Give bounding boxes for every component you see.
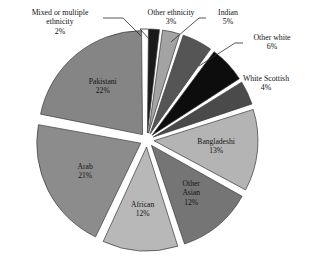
pie-label-other-asian: OtherAsian12% [182, 179, 200, 206]
callout-white-scottish-percent: 4% [228, 83, 304, 92]
callout-other-ethnicity: Other ethnicity 3% [133, 8, 209, 27]
callout-mixed-label-line2: ethnicity [46, 17, 73, 26]
callout-indian-label: Indian [218, 8, 238, 17]
callout-indian: Indian 5% [206, 8, 250, 27]
callout-other-ethnicity-label: Other ethnicity [148, 8, 195, 17]
callout-mixed-label-line1: Mixed or multiple [32, 8, 89, 17]
callout-other-white: Other white 6% [239, 33, 305, 52]
callout-other-white-label: Other white [253, 33, 290, 42]
callout-white-scottish-label: White Scottish [243, 74, 289, 83]
callout-other-ethnicity-percent: 3% [133, 17, 209, 26]
callout-mixed-percent: 2% [12, 27, 108, 36]
pie-chart-figure: Bangladeshi13%OtherAsian12%African12%Ara… [0, 0, 309, 259]
callout-other-white-percent: 6% [239, 42, 305, 51]
pie-label-arab: Arab21% [78, 162, 93, 180]
callout-indian-percent: 5% [206, 17, 250, 26]
callout-white-scottish: White Scottish 4% [228, 74, 304, 93]
callout-mixed-or-multiple-ethnicity: Mixed or multiple ethnicity 2% [12, 8, 108, 36]
